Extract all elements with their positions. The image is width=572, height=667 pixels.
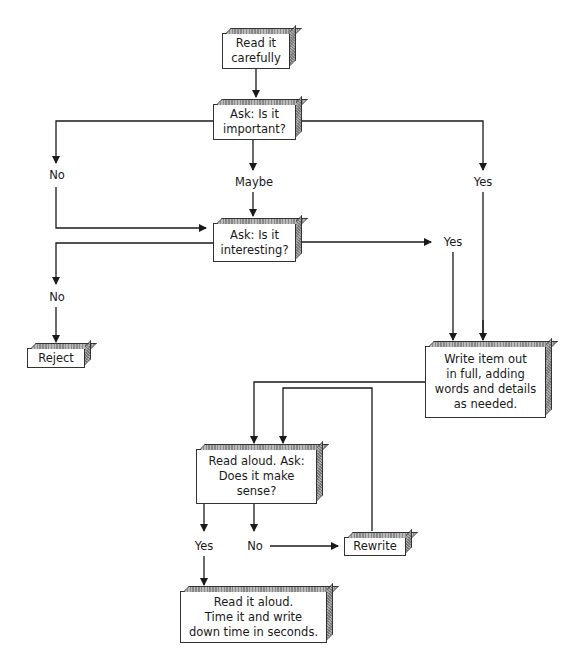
edge-label-important-no: No xyxy=(48,168,66,182)
edge-label-important-yes: Yes xyxy=(473,175,494,189)
edge-label-important-maybe: Maybe xyxy=(234,175,274,189)
node-makes-sense: Read aloud. Ask: Does it make sense? xyxy=(196,449,317,504)
node-rewrite: Rewrite xyxy=(344,537,406,556)
node-is-interesting: Ask: Is itinteresting? xyxy=(213,223,296,262)
node-text: carefully xyxy=(231,51,280,66)
node-text: words and details xyxy=(435,382,537,397)
node-text: Rewrite xyxy=(353,539,396,554)
node-text: Does it make xyxy=(208,469,304,484)
node-text: Read it xyxy=(231,36,280,51)
node-is-important: Ask: Is itimportant? xyxy=(213,104,296,140)
node-read-carefully: Read itcarefully xyxy=(222,33,290,69)
node-text: Read aloud. Ask: xyxy=(208,454,304,469)
node-text: Reject xyxy=(38,351,74,366)
node-text: as needed. xyxy=(435,397,537,412)
node-text: interesting? xyxy=(220,243,288,258)
node-text: Time it and write xyxy=(189,610,318,625)
node-text: Read it aloud. xyxy=(189,595,318,610)
node-time-it: Read it aloud. Time it and write down ti… xyxy=(180,591,327,643)
node-text: Write item out xyxy=(435,352,537,367)
node-text: down time in seconds. xyxy=(189,625,318,640)
edge-label-interesting-no: No xyxy=(48,290,66,304)
node-text: Ask: Is it xyxy=(223,107,286,122)
node-write-out: Write item out in full, adding words and… xyxy=(425,346,546,418)
edge-label-interesting-yes: Yes xyxy=(443,235,464,249)
edge-label-sense-yes: Yes xyxy=(194,539,215,553)
node-reject: Reject xyxy=(27,348,85,368)
edge-label-sense-no: No xyxy=(246,539,264,553)
node-text: in full, adding xyxy=(435,367,537,382)
node-text: sense? xyxy=(208,484,304,499)
node-text: Ask: Is it xyxy=(220,228,288,243)
node-text: important? xyxy=(223,122,286,137)
